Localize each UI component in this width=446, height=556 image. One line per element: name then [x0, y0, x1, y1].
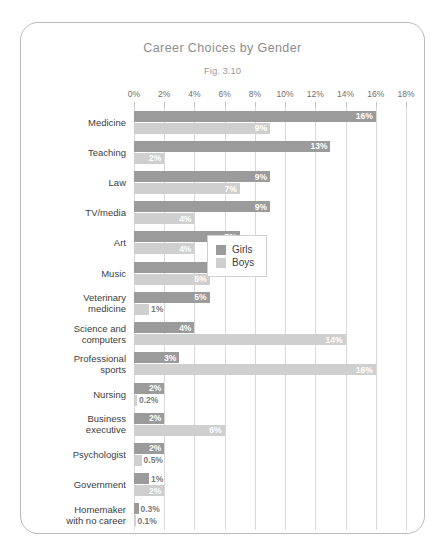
bar-row: Law9%7% [134, 167, 406, 197]
bar-row: Veterinarymedicine5%1% [134, 288, 406, 318]
category-label: Law [30, 177, 126, 188]
bar-value-label: 2% [149, 443, 161, 453]
x-tick-label: 12% [307, 89, 324, 99]
bar-row: Nursing2%0.2% [134, 379, 406, 409]
bar-rows: Medicine16%9%Teaching13%2%Law9%7%TV/medi… [134, 107, 406, 530]
x-tick-label: 10% [277, 89, 294, 99]
bar-row: Government1%2% [134, 470, 406, 500]
bar-boys: 6% [134, 425, 225, 436]
bar-boys: 1% [134, 304, 149, 315]
bar-girls: 5% [134, 292, 210, 303]
bar-value-label: 1% [151, 304, 163, 314]
chart-subtitle: Fig. 3.10 [21, 65, 424, 76]
bar-row: Science andcomputers4%14% [134, 319, 406, 349]
bar-row: Medicine16%9% [134, 107, 406, 137]
bar-girls: 2% [134, 443, 164, 454]
bar-boys: 5% [134, 274, 210, 285]
bar-value-label: 16% [356, 111, 373, 121]
bar-value-label: 3% [164, 353, 176, 363]
bar-value-label: 0.5% [144, 455, 163, 465]
category-label: Nursing [30, 389, 126, 400]
bar-girls: 9% [134, 171, 270, 182]
bar-boys: 4% [134, 243, 194, 254]
bar-value-label: 5% [194, 274, 206, 284]
category-label: TV/media [30, 207, 126, 218]
legend-item-girls: Girls [216, 244, 254, 255]
legend-label-boys: Boys [232, 257, 254, 268]
bar-value-label: 5% [194, 292, 206, 302]
bar-value-label: 0.2% [139, 395, 158, 405]
chart-card: Career Choices by Gender Fig. 3.10 0%2%4… [20, 22, 425, 534]
bar-value-label: 0.3% [141, 504, 160, 514]
bar-value-label: 4% [179, 244, 191, 254]
bar-girls: 4% [134, 322, 194, 333]
bar-value-label: 6% [209, 425, 221, 435]
bar-row: Psychologist2%0.5% [134, 439, 406, 469]
bar-girls: 16% [134, 111, 376, 122]
category-label: Professionalsports [30, 353, 126, 375]
bar-value-label: 2% [149, 486, 161, 496]
legend-swatch-girls-icon [216, 245, 226, 255]
bar-boys: 0.5% [134, 455, 142, 466]
chart-title: Career Choices by Gender [21, 41, 424, 55]
bar-value-label: 0.1% [138, 516, 157, 526]
category-label: Art [30, 237, 126, 248]
x-tick-label: 6% [219, 89, 231, 99]
chart-legend: Girls Boys [207, 235, 267, 277]
bar-row: Homemakerwith no career0.3%0.1% [134, 500, 406, 530]
bar-girls: 0.3% [134, 503, 139, 514]
bar-value-label: 14% [326, 335, 343, 345]
bar-girls: 2% [134, 413, 164, 424]
bar-boys: 7% [134, 183, 240, 194]
bar-girls: 1% [134, 473, 149, 484]
bar-value-label: 2% [149, 153, 161, 163]
category-label: Homemakerwith no career [30, 504, 126, 526]
bar-boys: 0.2% [134, 395, 137, 406]
x-tick-label: 8% [249, 89, 261, 99]
legend-label-girls: Girls [232, 244, 253, 255]
gridline [406, 107, 407, 530]
bar-row: Music6%5% [134, 258, 406, 288]
x-tick-label: 14% [337, 89, 354, 99]
bar-boys: 2% [134, 153, 164, 164]
legend-item-boys: Boys [216, 257, 254, 268]
bar-girls: 9% [134, 201, 270, 212]
bar-row: Teaching13%2% [134, 137, 406, 167]
bar-value-label: 2% [149, 413, 161, 423]
bar-value-label: 4% [179, 214, 191, 224]
category-label: Science andcomputers [30, 323, 126, 345]
bar-girls: 2% [134, 383, 164, 394]
bar-boys: 0.1% [134, 515, 136, 526]
bar-boys: 4% [134, 213, 194, 224]
bar-boys: 14% [134, 334, 346, 345]
x-axis-tick-labels: 0%2%4%6%8%10%12%14%16%18% [134, 89, 406, 105]
x-tick-label: 16% [367, 89, 384, 99]
bar-boys: 16% [134, 364, 376, 375]
bar-value-label: 1% [151, 474, 163, 484]
bar-value-label: 13% [310, 141, 327, 151]
plot-area: Medicine16%9%Teaching13%2%Law9%7%TV/medi… [134, 107, 406, 530]
x-tick-label: 0% [128, 89, 140, 99]
bar-boys: 2% [134, 485, 164, 496]
bar-row: TV/media9%4% [134, 198, 406, 228]
bar-row: Professionalsports3%16% [134, 349, 406, 379]
x-tick-label: 4% [188, 89, 200, 99]
category-label: Businessexecutive [30, 413, 126, 435]
bar-girls: 3% [134, 352, 179, 363]
bar-girls: 13% [134, 141, 330, 152]
category-label: Government [30, 479, 126, 490]
category-label: Veterinarymedicine [30, 292, 126, 314]
bar-value-label: 9% [255, 172, 267, 182]
category-label: Medicine [30, 117, 126, 128]
bar-value-label: 7% [224, 184, 236, 194]
category-label: Teaching [30, 147, 126, 158]
bar-row: Businessexecutive2%6% [134, 409, 406, 439]
bar-value-label: 16% [356, 365, 373, 375]
category-label: Psychologist [30, 449, 126, 460]
x-tick-label: 18% [397, 89, 414, 99]
x-tick-label: 2% [158, 89, 170, 99]
bar-row: Art7%4% [134, 228, 406, 258]
bar-value-label: 9% [255, 123, 267, 133]
legend-swatch-boys-icon [216, 258, 226, 268]
category-label: Music [30, 268, 126, 279]
